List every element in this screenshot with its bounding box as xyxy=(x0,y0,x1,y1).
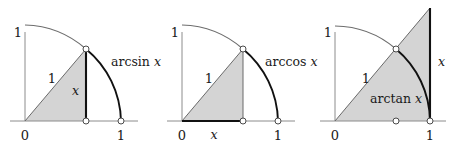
arccos-unit-point xyxy=(275,118,281,124)
panel-arctan: 1 0 1 1 x arctanx xyxy=(320,8,446,143)
arctan-hypotenuse-label: 1 xyxy=(362,71,370,86)
arccos-fn-name: arccos xyxy=(265,54,306,69)
arccos-origin-label: 0 xyxy=(178,128,186,143)
arccos-circle-point xyxy=(240,46,246,52)
arcsin-y-top-label: 1 xyxy=(14,25,22,40)
figure-canvas: 1 0 1 1 x arcsinx 1 0 1 1 x arccosx xyxy=(0,0,449,153)
arcsin-fn-var: x xyxy=(154,54,161,69)
arcsin-hypotenuse-label: 1 xyxy=(48,71,56,86)
arcsin-origin-label: 0 xyxy=(21,128,29,143)
arctan-origin-label: 0 xyxy=(331,128,339,143)
arccos-hypotenuse-label: 1 xyxy=(205,71,213,86)
arcsin-fn-name: arcsin xyxy=(111,54,150,69)
arccos-fn-var: x xyxy=(310,54,317,69)
arccos-y-top-label: 1 xyxy=(171,25,179,40)
arctan-circle-point xyxy=(393,46,399,52)
arcsin-arc-light xyxy=(25,25,86,49)
arctan-unit-point xyxy=(427,118,433,124)
arctan-fn-name: arctan xyxy=(370,91,411,106)
arcsin-unit-point xyxy=(118,118,124,124)
arccos-arc-light xyxy=(182,25,243,49)
arctan-segment-label: x xyxy=(438,54,445,69)
trig-inverse-figure: 1 0 1 1 x arcsinx 1 0 1 1 x arccosx xyxy=(0,0,449,153)
arcsin-unit-label: 1 xyxy=(117,128,125,143)
arcsin-foot-point xyxy=(83,118,89,124)
arctan-unit-label: 1 xyxy=(426,128,434,143)
arccos-foot-point xyxy=(240,118,246,124)
arctan-function-label: arctanx xyxy=(370,91,422,106)
arctan-fn-var: x xyxy=(415,91,422,106)
arcsin-circle-point xyxy=(83,46,89,52)
arctan-arc-light xyxy=(335,26,396,49)
arctan-mid-point xyxy=(393,118,399,124)
arcsin-function-label: arcsinx xyxy=(111,54,161,69)
arccos-unit-label: 1 xyxy=(274,128,282,143)
panel-arcsin: 1 0 1 1 x arcsinx xyxy=(10,25,161,143)
arccos-function-label: arccosx xyxy=(265,54,317,69)
arccos-segment-label: x xyxy=(210,127,217,142)
arctan-y-top-label: 1 xyxy=(324,25,332,40)
panel-arccos: 1 0 1 1 x arccosx xyxy=(167,25,317,143)
arcsin-segment-label: x xyxy=(72,83,79,98)
